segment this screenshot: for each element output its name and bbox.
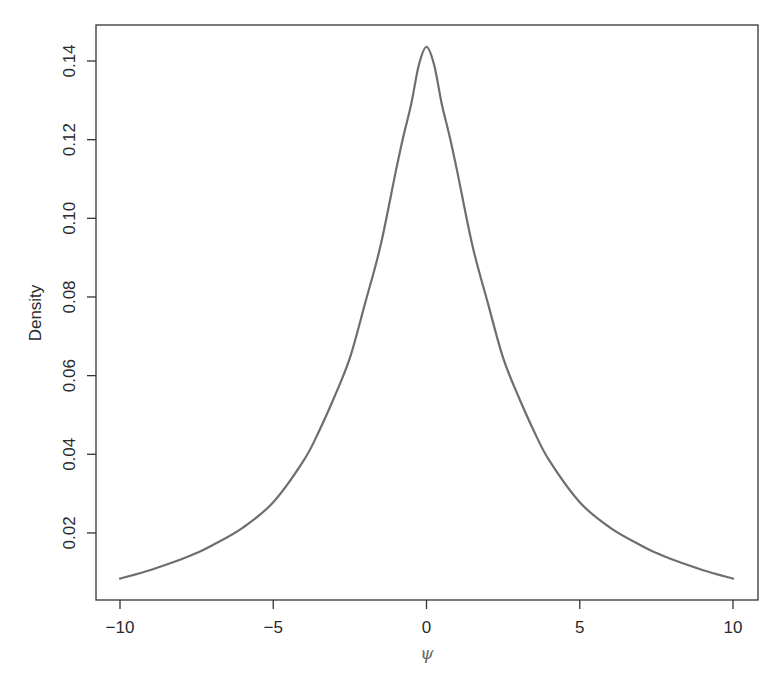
x-tick-label: 0 bbox=[422, 618, 431, 637]
y-tick-label: 0.02 bbox=[60, 516, 79, 549]
x-axis: −10−50510 bbox=[106, 600, 743, 637]
y-axis-title: Density bbox=[26, 284, 45, 341]
y-tick-label: 0.10 bbox=[60, 202, 79, 235]
y-tick-label: 0.12 bbox=[60, 123, 79, 156]
x-tick-label: −5 bbox=[264, 618, 283, 637]
y-tick-label: 0.06 bbox=[60, 359, 79, 392]
y-tick-label: 0.14 bbox=[60, 44, 79, 77]
x-tick-label: 10 bbox=[724, 618, 743, 637]
y-tick-label: 0.08 bbox=[60, 280, 79, 313]
y-tick-label: 0.04 bbox=[60, 438, 79, 471]
x-tick-label: −10 bbox=[106, 618, 135, 637]
density-curve bbox=[120, 47, 733, 579]
plot-box bbox=[96, 25, 758, 600]
x-axis-title: ψ bbox=[420, 643, 434, 663]
density-plot: −10−50510 0.020.040.060.080.100.120.14 D… bbox=[0, 0, 783, 682]
y-axis: 0.020.040.060.080.100.120.14 bbox=[60, 44, 96, 549]
x-tick-label: 5 bbox=[575, 618, 584, 637]
